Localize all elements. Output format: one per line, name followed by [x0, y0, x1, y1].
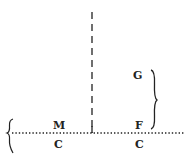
- label-f: F: [135, 119, 143, 132]
- label-c-right: C: [135, 138, 144, 151]
- left-brace-icon: [7, 119, 13, 153]
- label-c-left: C: [54, 138, 63, 151]
- right-brace-icon: [151, 70, 157, 129]
- diagram-canvas: M C G F C: [0, 0, 195, 156]
- label-m: M: [53, 119, 65, 132]
- label-g: G: [133, 69, 142, 82]
